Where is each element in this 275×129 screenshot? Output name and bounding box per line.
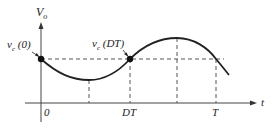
x-axis-label: t xyxy=(261,97,264,108)
y-axis-label: Vo xyxy=(36,6,47,21)
vcdt-point xyxy=(127,56,133,62)
vcdt-label: vc (DT) xyxy=(92,38,124,52)
vcdt-pointer-head-icon xyxy=(124,53,129,58)
tick-label-dt: DT xyxy=(122,107,136,118)
x-axis-arrow-icon xyxy=(250,101,257,106)
vc0-pointer-head-icon xyxy=(35,53,40,57)
tick-label-0: 0 xyxy=(44,107,50,118)
y-axis-arrow-icon xyxy=(39,22,44,29)
tick-label-t: T xyxy=(212,107,218,118)
vc0-point xyxy=(38,56,44,62)
vc0-label: vc (0) xyxy=(7,39,31,53)
